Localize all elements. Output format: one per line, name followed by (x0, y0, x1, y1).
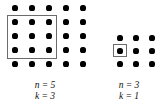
lattice-dot (133, 48, 138, 53)
lattice-dot (149, 48, 154, 53)
lattice-dot (117, 35, 122, 40)
right-caption-k: k = 1 (93, 91, 165, 102)
lattice-dot (149, 61, 154, 66)
right-caption-n: n = 3 (93, 80, 165, 91)
right-selection-box (113, 44, 127, 57)
lattice-dot (117, 61, 122, 66)
right-caption: n = 3 k = 1 (93, 80, 165, 101)
lattice-dot (133, 61, 138, 66)
lattice-dot (133, 35, 138, 40)
lattice-dot (149, 35, 154, 40)
lattice-selection-figure: n = 5 k = 3 n = 3 k = 1 (0, 0, 165, 111)
